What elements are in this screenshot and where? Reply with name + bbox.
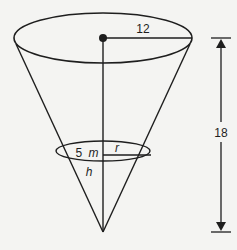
cone-left-side	[16, 44, 103, 232]
total-height-label: 18	[214, 126, 228, 140]
water-depth-label: 5 m	[75, 146, 98, 160]
water-radius-label: r	[115, 141, 120, 155]
water-depth-number: 5	[75, 146, 82, 160]
water-depth-unit: m	[89, 146, 99, 160]
cone-right-side	[103, 44, 190, 232]
cone-diagram: 12 18 r 5 m h	[0, 0, 237, 250]
top-radius-label: 12	[136, 22, 150, 36]
arrow-down-icon	[216, 222, 226, 231]
cone-diagram-svg: 12 18 r 5 m h	[0, 0, 237, 250]
water-height-label: h	[86, 165, 93, 179]
arrow-up-icon	[216, 39, 226, 48]
